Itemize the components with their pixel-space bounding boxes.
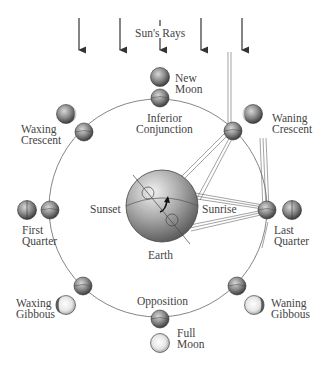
label-line: Moon [177,339,204,350]
sun-rays-label: Sun's Rays [135,28,185,39]
moon-waning-crescent-orbit [224,122,242,140]
moon-opposition [151,310,169,328]
moon-waxing-gibbous-orbit [74,277,92,295]
last-quarter-icon [283,201,302,220]
waning-gibbous-label: Waning Gibbous [271,298,310,320]
moon-inferior-conjunction [151,89,169,107]
label-line: Crescent [272,124,312,135]
moon-waxing-crescent-orbit [75,123,93,141]
waning-crescent-label: Waning Crescent [272,113,312,135]
last-quarter-label: Last Quarter [274,225,309,247]
inferior-conjunction-label: Inferior Conjunction [136,113,193,135]
label-line: Moon [175,84,202,95]
moon-last-quarter-orbit [258,201,276,219]
moon-waning-gibbous-orbit [228,277,246,295]
full-moon-label: Full Moon [177,328,204,350]
label-line: Gibbous [271,309,310,320]
waning-crescent-icon [243,105,263,124]
waxing-gibbous-icon [56,296,76,315]
full-moon-icon [151,334,170,353]
label-line: Gibbous [16,309,55,320]
new-moon-label: New Moon [175,73,202,95]
waxing-gibbous-label: Waxing Gibbous [16,298,55,320]
label-line: Conjunction [136,124,193,135]
first-quarter-icon [18,201,37,220]
sunrise-label: Sunrise [202,204,237,215]
label-line: Quarter [274,236,309,247]
earth [126,170,198,244]
opposition-label: Opposition [137,296,188,307]
new-moon-icon [151,68,170,87]
label-line: Crescent [21,135,61,146]
first-quarter-label: First Quarter [22,225,57,247]
earth-label: Earth [148,250,173,261]
moon-first-quarter-orbit [41,201,59,219]
label-line: Quarter [22,236,57,247]
waxing-crescent-icon [57,105,77,124]
waxing-crescent-label: Waxing Crescent [21,124,61,146]
waning-gibbous-icon [245,296,265,315]
sunset-label: Sunset [90,204,121,215]
